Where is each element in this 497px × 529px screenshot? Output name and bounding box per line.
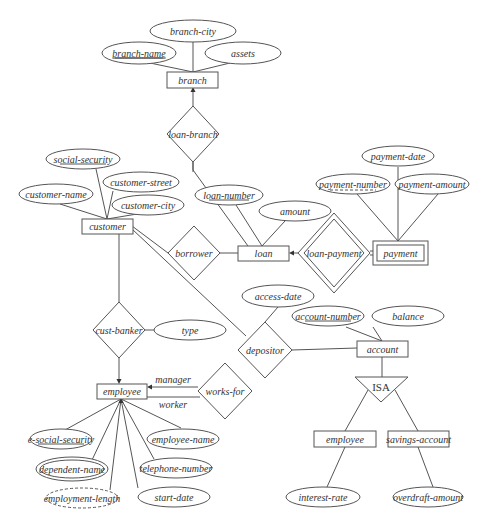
svg-text:payment: payment (383, 248, 418, 259)
svg-text:employee: employee (326, 434, 364, 445)
svg-text:balance: balance (392, 311, 424, 322)
svg-text:interest-rate: interest-rate (298, 492, 348, 503)
svg-text:telephone-number: telephone-number (140, 463, 213, 474)
attribute-customer-city: customer-city (112, 195, 184, 215)
svg-text:account: account (367, 344, 399, 355)
relationship-works-for: works-for (198, 363, 252, 419)
svg-text:social-security: social-security (54, 154, 113, 165)
svg-text:depositor: depositor (246, 345, 284, 356)
employee-label: employee (103, 386, 141, 397)
svg-text:customer-name: customer-name (25, 189, 87, 200)
svg-text:savings-account: savings-account (386, 434, 451, 445)
attribute-loan-number-key: loan-number (195, 185, 263, 205)
attribute-dependent-name-multivalued: dependent-name (36, 457, 108, 481)
arrowhead-icon (289, 251, 294, 256)
svg-text:overdraft-amount: overdraft-amount (393, 492, 463, 503)
svg-text:payment-number: payment-number (318, 179, 387, 190)
svg-text:customer-city: customer-city (121, 200, 176, 211)
arrowhead-icon (147, 385, 152, 390)
svg-text:branch-name: branch-name (112, 48, 166, 59)
attribute-access-date: access-date (242, 285, 314, 307)
attribute-amount: amount (259, 201, 331, 221)
svg-text:branch: branch (178, 75, 206, 86)
svg-text:type: type (182, 325, 199, 336)
svg-text:loan: loan (255, 248, 273, 259)
attribute-payment-number-partial-key: payment-number (316, 174, 390, 194)
svg-text:dependent-name: dependent-name (39, 464, 106, 475)
attribute-type: type (154, 320, 226, 340)
attribute-employee-name: employee-name (147, 429, 219, 449)
svg-text:branch-city: branch-city (170, 26, 217, 37)
relationship-loan-payment: loan-payment (298, 213, 370, 293)
svg-text:ISA: ISA (372, 381, 390, 393)
entity-employee: checking-account employee employee (97, 384, 147, 399)
svg-text:employee-name: employee-name (152, 434, 215, 445)
attribute-assets: assets (205, 42, 281, 64)
svg-text:loan-branch: loan-branch (168, 129, 217, 140)
svg-text:loan-number: loan-number (203, 190, 255, 201)
arrowhead-icon (117, 379, 122, 384)
attribute-telephone-number: telephone-number (140, 458, 213, 478)
svg-text:employment-length: employment-length (44, 493, 121, 504)
relationship-borrower: borrower (168, 226, 220, 280)
attribute-payment-amount: payment-amount (395, 174, 469, 194)
svg-text:start-date: start-date (155, 492, 194, 503)
attribute-e-social-security-key: e-social-security (28, 429, 95, 449)
attribute-branch-city: branch-city (150, 20, 236, 42)
svg-text:assets: assets (231, 48, 255, 59)
svg-text:e-social-security: e-social-security (28, 434, 95, 445)
svg-text:customer-street: customer-street (110, 177, 172, 188)
connectors (60, 42, 438, 490)
attribute-overdraft-amount: overdraft-amount (393, 487, 463, 507)
attribute-account-number-key: account-number (292, 306, 364, 326)
attribute-balance: balance (372, 306, 444, 326)
svg-text:access-date: access-date (255, 291, 302, 302)
entity-payment-weak: payment (373, 241, 428, 265)
role-worker: worker (159, 399, 187, 410)
entity-savings-account: employee (314, 431, 376, 447)
attribute-customer-name: customer-name (19, 184, 93, 204)
attribute-customer-street: customer-street (103, 172, 179, 192)
relationship-depositor: depositor (238, 322, 292, 378)
svg-text:payment-date: payment-date (370, 151, 426, 162)
svg-text:amount: amount (280, 206, 310, 217)
svg-text:payment-amount: payment-amount (397, 179, 465, 190)
svg-text:customer: customer (89, 221, 126, 232)
entity-checking-account: savings-account (386, 431, 451, 447)
attribute-start-date: start-date (138, 487, 210, 507)
role-manager: manager (155, 374, 191, 385)
attribute-branch-name-key: branch-name (102, 42, 176, 64)
svg-text:works-for: works-for (206, 386, 245, 397)
er-diagram: branch-city branch-name assets branch lo… (0, 0, 497, 529)
attribute-employment-length-derived: employment-length (44, 488, 121, 508)
entity-branch: branch (167, 72, 218, 88)
entity-account: account (357, 341, 408, 357)
attribute-interest-rate: interest-rate (286, 487, 360, 507)
relationship-cust-banker: cust-banker (93, 302, 145, 358)
svg-text:account-number: account-number (295, 311, 361, 322)
attribute-social-security-key: social-security (46, 149, 120, 169)
svg-text:loan-payment: loan-payment (307, 248, 362, 259)
svg-text:borrower: borrower (175, 248, 213, 259)
entity-loan: loan (238, 246, 289, 261)
relationship-loan-branch: loan-branch (167, 106, 219, 162)
entity-customer: customer (82, 219, 133, 234)
svg-text:cust-banker: cust-banker (95, 325, 142, 336)
attribute-payment-date: payment-date (362, 146, 434, 166)
